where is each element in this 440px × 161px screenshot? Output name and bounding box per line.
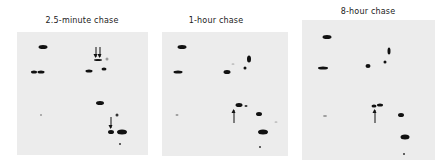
protein-spot bbox=[119, 143, 121, 145]
autoradiograph bbox=[302, 20, 435, 160]
arrow-up-icon bbox=[234, 110, 235, 123]
protein-spot bbox=[117, 130, 127, 135]
protein-spot bbox=[259, 146, 261, 148]
panel-caption: 8-hour chase bbox=[341, 7, 396, 16]
protein-spot bbox=[108, 130, 114, 134]
protein-spot bbox=[232, 64, 235, 65]
protein-spot bbox=[366, 64, 371, 68]
protein-spot bbox=[31, 71, 37, 74]
protein-spot bbox=[323, 115, 327, 117]
protein-spot bbox=[245, 105, 248, 107]
autoradiograph bbox=[17, 32, 148, 155]
protein-spot bbox=[38, 71, 45, 74]
autoradiograph bbox=[162, 32, 288, 156]
protein-spot bbox=[318, 67, 328, 70]
protein-spot bbox=[258, 130, 268, 135]
panel-caption: 1-hour chase bbox=[189, 16, 244, 25]
protein-spot bbox=[39, 45, 48, 49]
protein-spot bbox=[398, 113, 404, 117]
protein-spot bbox=[102, 68, 107, 71]
protein-spot bbox=[388, 48, 391, 55]
arrow-down-icon bbox=[96, 47, 97, 57]
protein-spot bbox=[401, 135, 410, 140]
arrow-down-icon bbox=[100, 47, 101, 57]
protein-spot bbox=[94, 59, 102, 61]
protein-spot bbox=[323, 35, 332, 39]
protein-spot bbox=[403, 153, 405, 155]
protein-spot bbox=[176, 114, 179, 116]
protein-spot bbox=[236, 103, 243, 107]
gel-figure: 2.5-minute chase 1-hour chase 8-hour cha… bbox=[0, 0, 440, 161]
protein-spot bbox=[372, 105, 377, 108]
protein-spot bbox=[174, 71, 183, 74]
protein-spot bbox=[106, 58, 109, 61]
protein-spot bbox=[96, 101, 104, 105]
protein-spot bbox=[178, 45, 187, 49]
protein-spot bbox=[377, 104, 383, 107]
protein-spot bbox=[116, 114, 119, 117]
panel-caption: 2.5-minute chase bbox=[45, 16, 118, 25]
arrow-down-icon bbox=[111, 117, 112, 128]
protein-spot bbox=[86, 70, 93, 73]
arrow-up-icon bbox=[375, 110, 376, 123]
protein-spot bbox=[40, 114, 42, 116]
protein-spot bbox=[247, 56, 251, 63]
protein-spot bbox=[384, 61, 387, 64]
protein-spot bbox=[256, 112, 262, 116]
protein-spot bbox=[275, 122, 278, 123]
protein-spot bbox=[224, 70, 231, 74]
protein-spot bbox=[244, 67, 247, 70]
